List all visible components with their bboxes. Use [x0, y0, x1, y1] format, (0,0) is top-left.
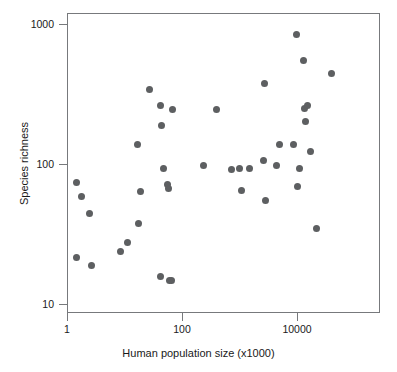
data-point	[160, 165, 167, 172]
data-point	[73, 254, 80, 261]
x-axis-tick-label: 1	[27, 324, 107, 335]
plot-area	[67, 13, 380, 313]
y-axis-tick-label: 1000	[31, 19, 54, 30]
data-point	[165, 185, 172, 192]
data-point	[146, 86, 153, 93]
data-point	[157, 273, 164, 280]
data-point	[261, 80, 268, 87]
x-axis-label: Human population size (x1000)	[0, 347, 397, 360]
data-point	[290, 141, 297, 148]
data-point	[304, 102, 311, 109]
data-point	[228, 166, 235, 173]
data-point	[313, 225, 320, 232]
y-axis-tick-mark	[59, 24, 67, 25]
data-point	[88, 262, 95, 269]
data-point	[236, 165, 243, 172]
data-point	[73, 179, 80, 186]
y-axis-tick-label: 10	[42, 299, 54, 310]
data-point	[246, 165, 253, 172]
data-point	[168, 277, 175, 284]
x-axis-tick-label: 100	[142, 324, 222, 335]
data-point	[276, 141, 283, 148]
y-axis-label: Species richness	[18, 74, 31, 254]
data-point	[78, 193, 85, 200]
data-point	[238, 187, 245, 194]
data-point	[260, 157, 267, 164]
data-point	[135, 220, 142, 227]
data-point	[293, 31, 300, 38]
data-point	[169, 106, 176, 113]
data-points-layer	[68, 14, 379, 312]
data-point	[213, 106, 220, 113]
data-point	[86, 210, 93, 217]
x-axis-tick-mark	[297, 313, 298, 321]
y-axis-tick-mark	[59, 164, 67, 165]
data-point	[137, 188, 144, 195]
data-point	[307, 148, 314, 155]
data-point	[296, 165, 303, 172]
data-point	[158, 122, 165, 129]
data-point	[157, 102, 164, 109]
data-point	[328, 70, 335, 77]
data-point	[262, 197, 269, 204]
y-axis-tick-label: 100	[36, 159, 54, 170]
data-point	[302, 118, 309, 125]
data-point	[273, 162, 280, 169]
data-point	[294, 183, 301, 190]
data-point	[200, 162, 207, 169]
x-axis-tick-label: 10000	[257, 324, 337, 335]
x-axis-tick-mark	[67, 313, 68, 321]
data-point	[134, 141, 141, 148]
data-point	[124, 239, 131, 246]
data-point	[117, 248, 124, 255]
data-point	[300, 57, 307, 64]
x-axis-tick-mark	[182, 313, 183, 321]
y-axis-tick-mark	[59, 304, 67, 305]
scatter-plot-figure: 101001000 110010000 Human population siz…	[0, 0, 397, 372]
